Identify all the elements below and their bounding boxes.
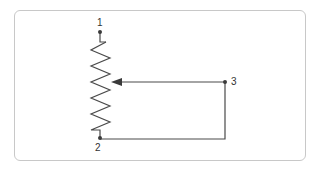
potentiometer-schematic (0, 0, 320, 170)
terminal-2-label: 2 (95, 143, 101, 153)
terminal-1-dot (98, 30, 102, 34)
wiper-arrow-icon (111, 78, 122, 86)
wire-3-to-2 (100, 82, 225, 139)
terminal-3-label: 3 (231, 77, 237, 87)
terminal-3-dot (223, 80, 227, 84)
terminal-1-label: 1 (97, 18, 103, 28)
resistor-zigzag-icon (91, 42, 110, 138)
terminal-2-dot (98, 136, 102, 140)
